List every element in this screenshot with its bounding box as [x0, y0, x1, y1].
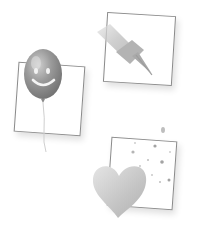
illustration	[0, 0, 199, 226]
balloon-icon	[24, 49, 62, 152]
artwork-layer	[0, 0, 199, 226]
heart-icon	[93, 166, 146, 218]
pushpin-icon	[97, 24, 152, 75]
